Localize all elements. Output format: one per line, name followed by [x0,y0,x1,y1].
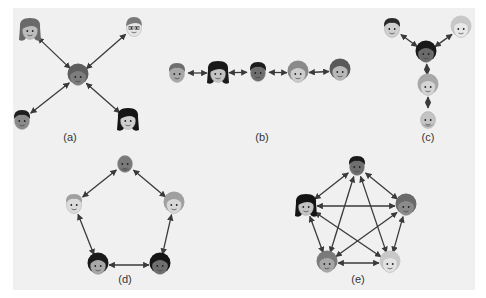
communication-link-d3-d5 [162,215,171,255]
communication-link-d2-d4 [78,214,94,255]
person-face-icon [418,74,439,96]
communication-link-b4-b5 [309,72,329,73]
communication-link-d1-d3 [133,170,165,197]
person-face-icon [117,108,139,131]
person-face-icon [349,156,365,176]
communication-link-e1-e3 [366,173,398,199]
person-face-icon [330,59,351,81]
person-face-icon [380,251,401,273]
person-face-icon [126,17,142,37]
person-face-icon [150,253,171,275]
communication-link-a4-a3 [31,83,70,113]
communication-link-e3-e4 [336,212,397,256]
communication-link-c3-c4 [427,64,428,75]
person-face-icon [68,64,89,86]
person-face-icon [384,18,400,38]
communication-link-e3-e5 [393,217,403,253]
person-face-icon [169,63,185,83]
communication-link-c1-c3 [401,35,417,47]
person-face-icon [295,194,317,217]
communication-link-c2-c3 [435,34,452,46]
person-face-icon [66,194,82,214]
person-face-icon [14,110,30,130]
communication-link-e2-e4 [310,216,323,252]
communication-link-e2-e5 [315,212,381,257]
communication-link-e1-e2 [315,173,349,199]
communication-link-d1-d2 [83,170,117,197]
person-face-icon [19,18,41,41]
communication-network-diagram: (a)(b)(c)(d)(e) [0,0,486,298]
person-face-icon [88,253,109,275]
panel-label-a: (a) [63,131,76,143]
communication-link-a1-a3 [38,38,70,69]
panel-label-c: (c) [422,131,435,143]
communication-link-a2-a3 [86,34,125,69]
communication-link-e1-e5 [361,176,387,252]
person-face-icon [118,156,133,173]
communication-link-a5-a3 [86,83,119,112]
panel-label-e: (e) [351,273,364,285]
person-face-icon [317,251,338,273]
person-face-icon [416,41,437,63]
person-face-icon [164,192,185,214]
panel-label-b: (b) [255,131,268,143]
person-face-icon [288,61,309,83]
person-face-icon [396,194,417,216]
person-face-icon [250,62,266,82]
person-face-icon [421,112,436,129]
communication-link-e1-e4 [330,177,353,253]
panel-label-d: (d) [118,273,131,285]
person-face-icon [207,61,229,84]
person-face-icon [451,16,472,38]
